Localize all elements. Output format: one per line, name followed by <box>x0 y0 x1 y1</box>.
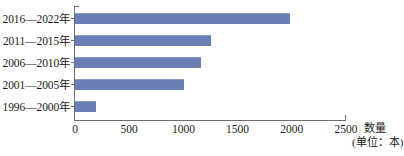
bar-2[interactable] <box>75 57 201 68</box>
x-axis-line <box>74 120 346 121</box>
y-tick-1 <box>71 40 74 41</box>
y-tick-2 <box>71 62 74 63</box>
category-label-0: 2016—2022年 <box>0 8 70 30</box>
y-tick-0 <box>71 18 74 19</box>
y-axis-top-tick <box>74 6 79 7</box>
category-label-1: 2011—2015年 <box>0 30 70 52</box>
x-tick-label-1: 500 <box>99 123 159 135</box>
x-axis-caption: 数量 (单位：本) <box>352 121 403 149</box>
x-tick-label-0: 0 <box>45 123 105 135</box>
y-tick-3 <box>71 84 74 85</box>
bar-3[interactable] <box>75 79 184 90</box>
bar-0[interactable] <box>75 13 290 24</box>
x-tick-label-3: 1500 <box>208 123 268 135</box>
bar-row: 2016—2022年 <box>0 8 404 30</box>
category-label-2: 2006—2010年 <box>0 52 70 74</box>
bar-row: 2011—2015年 <box>0 30 404 52</box>
x-tick-label-2: 1000 <box>153 123 213 135</box>
bar-chart: 2016—2022年 2011—2015年 2006—2010年 2001—20… <box>0 0 404 156</box>
x-tick-label-4: 2000 <box>262 123 322 135</box>
y-tick-4 <box>71 106 74 107</box>
category-label-3: 2001—2005年 <box>0 74 70 96</box>
bar-row: 2001—2005年 <box>0 74 404 96</box>
bar-4[interactable] <box>75 101 96 112</box>
x-axis-unit: (单位：本) <box>352 135 403 149</box>
category-label-4: 1996—2000年 <box>0 96 70 118</box>
x-axis-title: 数量 <box>352 121 403 135</box>
bar-1[interactable] <box>75 35 211 46</box>
bar-row: 2006—2010年 <box>0 52 404 74</box>
bar-row: 1996—2000年 <box>0 96 404 118</box>
